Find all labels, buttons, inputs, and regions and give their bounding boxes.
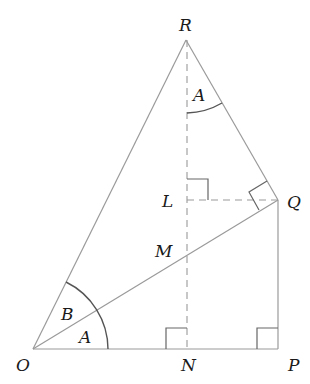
right-angle-marker-P bbox=[257, 328, 278, 349]
angle-label-A-at-R: A bbox=[191, 85, 205, 105]
label-M: M bbox=[154, 241, 173, 261]
label-P: P bbox=[287, 355, 300, 375]
label-O: O bbox=[16, 355, 30, 375]
label-N: N bbox=[180, 355, 197, 375]
right-angle-marker-L bbox=[187, 179, 208, 200]
trig-compound-angle-diagram: R L Q M O N P A B A bbox=[0, 0, 310, 384]
right-angle-marker-Q bbox=[249, 181, 267, 210]
label-Q: Q bbox=[287, 192, 301, 212]
angle-label-A-at-O: A bbox=[77, 327, 91, 347]
label-R: R bbox=[178, 15, 192, 35]
segment-RQ bbox=[186, 40, 278, 200]
right-angle-marker-N bbox=[166, 328, 187, 349]
label-L: L bbox=[161, 191, 173, 211]
angle-label-B-at-O: B bbox=[60, 304, 74, 324]
